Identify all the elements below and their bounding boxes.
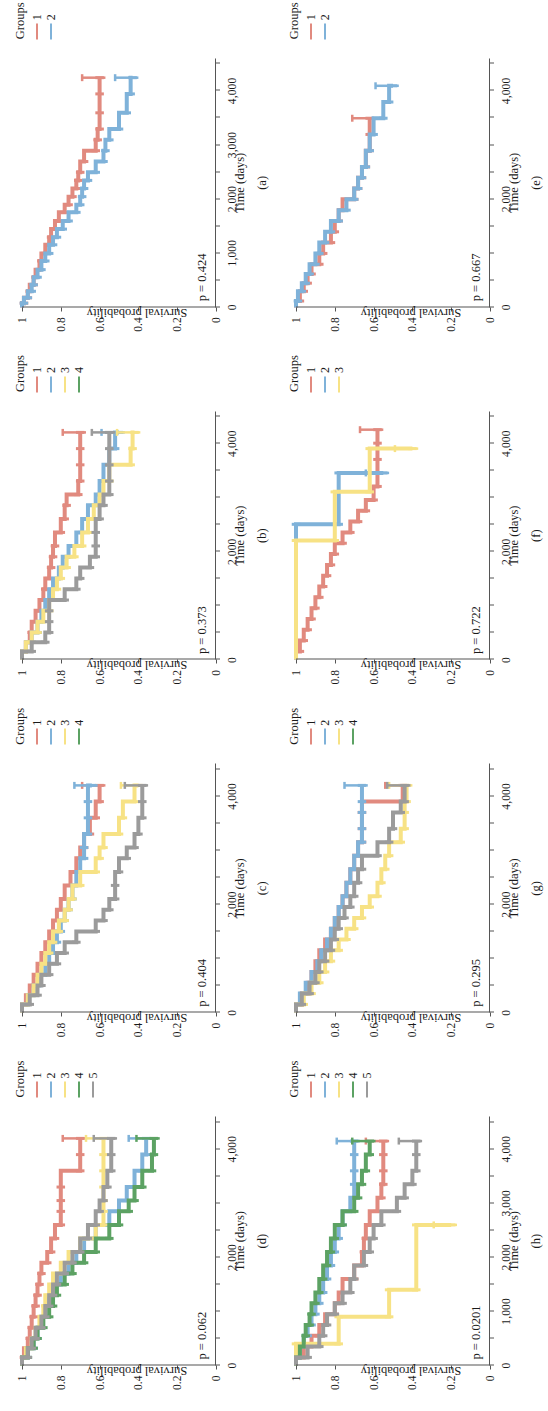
legend-label-group-2: 2 (45, 367, 57, 373)
panel-caption-e: (e) (529, 58, 544, 307)
legend-title: Groups (288, 708, 301, 745)
legend-label-group-4: 4 (73, 367, 85, 373)
legend-swatch-group-1 (36, 376, 38, 392)
y-axis-title: Survival probability (326, 304, 496, 319)
x-axis-tick (216, 631, 220, 632)
panel-d: Groups 12345 02,0004,000 00.20.40.60.81 … (0, 1058, 274, 1411)
x-axis-title: Time (days) (507, 764, 522, 1013)
x-axis-tick (490, 198, 494, 199)
legend-swatch-group-3 (64, 1081, 66, 1097)
legend-item-group-4: 4 (347, 708, 360, 745)
legend-label-group-1: 1 (305, 14, 317, 20)
y-axis-tick (296, 1365, 297, 1369)
x-axis-title: Time (days) (507, 1116, 522, 1365)
legend-swatch-group-5 (366, 1081, 368, 1097)
x-axis-tick (490, 768, 494, 769)
x-axis-tick (490, 89, 494, 90)
x-axis-tick (490, 1337, 494, 1338)
x-axis-tick (216, 795, 220, 796)
plot-area-h: 01,0002,0003,0004,000 00.20.40.60.81 p =… (296, 1116, 490, 1365)
panel-caption-f: (f) (529, 411, 544, 660)
legend-swatch-group-5 (92, 1081, 94, 1097)
x-axis-line (489, 58, 490, 307)
panel-h: Groups 12345 01,0002,0003,0004,000 00.20… (274, 1058, 548, 1411)
legend-item-group-2: 2 (45, 1060, 58, 1097)
legend-item-group-2: 2 (45, 708, 58, 745)
x-axis-tick (490, 1229, 494, 1230)
legend-swatch-group-3 (338, 376, 340, 392)
legend-label-group-2: 2 (319, 367, 331, 373)
legend-item-group-2: 2 (319, 708, 332, 745)
legend-swatch-group-1 (36, 23, 38, 39)
x-axis-tick (216, 1310, 220, 1311)
x-axis-title: Time (days) (233, 1116, 248, 1365)
legend-label-group-2: 2 (319, 1072, 331, 1078)
legend-label-group-2: 2 (319, 719, 331, 725)
legend-a: Groups 12 (14, 2, 58, 39)
legend-items: 12345 (31, 1060, 100, 1097)
x-axis-tick (490, 1121, 494, 1122)
legend-items: 123 (305, 355, 346, 392)
panel-caption-h: (h) (529, 1116, 544, 1365)
x-axis-title: Time (days) (507, 411, 522, 660)
legend-item-group-5: 5 (87, 1060, 100, 1097)
x-axis-tick (216, 442, 220, 443)
panel-b: Groups 1234 02,0004,000 00.20.40.60.81 p… (0, 353, 274, 706)
y-axis-tick-label: 1 (290, 670, 302, 676)
legend-label-group-3: 3 (333, 1072, 345, 1078)
x-axis-tick (490, 252, 494, 253)
x-axis-tick (490, 1310, 494, 1311)
x-axis-tick (490, 1283, 494, 1284)
legend-h: Groups 12345 (288, 1060, 374, 1097)
legend-item-group-2: 2 (45, 355, 58, 392)
p-value-label-a: p = 0.424 (195, 253, 210, 301)
y-axis-tick-label: 1 (16, 1022, 28, 1028)
y-axis-tick-label: 1 (290, 1022, 302, 1028)
legend-swatch-group-2 (50, 376, 52, 392)
panel-caption-b: (b) (255, 411, 270, 660)
panel-e: Groups 12 02,0004,000 00.20.40.60.81 p =… (274, 0, 548, 353)
x-axis-tick (490, 984, 494, 985)
legend-label-group-1: 1 (31, 1072, 43, 1078)
legend-item-group-2: 2 (319, 2, 332, 39)
legend-swatch-group-2 (324, 23, 326, 39)
legend-label-group-2: 2 (319, 14, 331, 20)
x-axis-tick (216, 116, 220, 117)
x-axis-tick (490, 822, 494, 823)
y-axis-title: Survival probability (52, 1010, 222, 1025)
panel-caption-a: (a) (255, 58, 270, 307)
x-axis-tick (490, 604, 494, 605)
legend-items: 12345 (305, 1060, 374, 1097)
y-axis-title: Survival probability (326, 657, 496, 672)
x-axis-line (489, 411, 490, 660)
legend-item-group-1: 1 (305, 2, 318, 39)
legend-e: Groups 12 (288, 2, 332, 39)
panel-f: Groups 123 02,0004,000 00.20.40.60.81 p … (274, 353, 548, 706)
x-axis-tick (216, 469, 220, 470)
y-axis-title: Survival probability (52, 304, 222, 319)
x-axis-tick (216, 523, 220, 524)
legend-swatch-group-2 (50, 1081, 52, 1097)
y-axis-tick (296, 307, 297, 311)
x-axis-tick (216, 768, 220, 769)
survival-curve-group-1 (296, 430, 377, 660)
x-axis-line (489, 764, 490, 1013)
x-axis-tick (216, 604, 220, 605)
legend-items: 12 (305, 2, 332, 39)
legend-item-group-1: 1 (305, 708, 318, 745)
survival-curve-group-3 (296, 449, 412, 660)
x-axis-tick (490, 1256, 494, 1257)
y-axis-tick (22, 307, 23, 311)
legend-label-group-3: 3 (333, 719, 345, 725)
x-axis-tick (216, 1148, 220, 1149)
survival-curve-group-1 (22, 77, 100, 307)
legend-item-group-3: 3 (59, 1060, 72, 1097)
x-axis-line (215, 58, 216, 307)
legend-label-group-4: 4 (347, 719, 359, 725)
legend-swatch-group-4 (78, 728, 80, 744)
p-value-label-d: p = 0.062 (195, 1311, 210, 1359)
x-axis-tick (216, 1175, 220, 1176)
y-axis-tick (296, 1012, 297, 1016)
x-axis-tick (216, 577, 220, 578)
x-axis-line (215, 1116, 216, 1365)
